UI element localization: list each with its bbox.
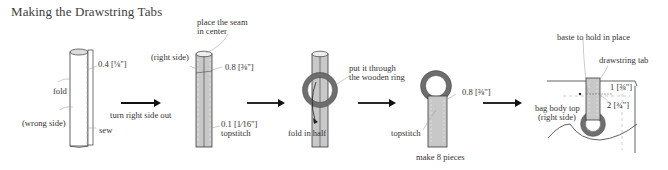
- step1-sew-label: sew: [99, 126, 112, 136]
- step2-width-label: 0.8 [⅜"]: [225, 63, 254, 73]
- arrow-icon: [358, 99, 396, 107]
- step1-wrong-side-label: (wrong side): [22, 119, 66, 129]
- arrow-icon: [483, 99, 522, 107]
- step4-topstitch-label: topstitch: [391, 129, 421, 139]
- step4-make-pieces-label: make 8 pieces: [416, 153, 465, 163]
- arrow1-label: turn right side out: [110, 111, 171, 121]
- step3-fold-in-half-label: fold in half: [288, 129, 326, 139]
- step4-tab-illustration: [421, 71, 457, 148]
- step1-fold-label: fold: [53, 87, 67, 97]
- step2-right-side-label: (right side): [151, 53, 189, 63]
- arrow-icon: [247, 99, 285, 107]
- step5-drawstring-tab-label: drawstring tab: [599, 56, 648, 66]
- step2-place-seam-label-2: in center: [197, 27, 227, 37]
- step1-seam-allowance-label: 0.4 [⅛"]: [98, 60, 127, 70]
- arrow-icon: [121, 99, 161, 107]
- step3-put-through-label-2: the wooden ring: [349, 73, 405, 83]
- step5-dim1-label: 1 [⅜"]: [610, 83, 632, 93]
- step1-tube-illustration: [58, 49, 97, 148]
- step2-topstitch-label: topstitch: [221, 129, 251, 139]
- step4-width-label: 0.8 [⅜"]: [462, 88, 491, 98]
- step5-baste-label: baste to hold in place: [557, 33, 630, 43]
- step5-right-side-label: (right side): [538, 113, 576, 123]
- diagram-artwork: [0, 0, 668, 170]
- step5-dim2-label: 2 [¾"]: [607, 101, 629, 111]
